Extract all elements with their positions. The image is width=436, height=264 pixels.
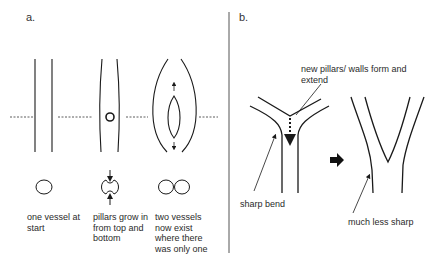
annotation-sharp-bend: sharp bend bbox=[240, 199, 285, 210]
leader-sharp-bend bbox=[254, 136, 275, 191]
vessel-with-pillar bbox=[100, 59, 120, 152]
vessel-cross-section-right bbox=[175, 180, 190, 194]
transition-arrow-icon bbox=[330, 153, 344, 167]
vessel-cross-section-single bbox=[36, 180, 52, 194]
vessel-smooth-branch bbox=[351, 97, 424, 193]
caption-step-2: pillars grow in from top and bottom bbox=[93, 212, 148, 244]
annotation-less-sharp: much less sharp bbox=[348, 217, 414, 228]
vessel-split bbox=[153, 59, 196, 152]
caption-step-3: two vessels now exist where there was on… bbox=[155, 212, 208, 254]
leader-less-sharp bbox=[353, 176, 369, 213]
pillar-icon bbox=[106, 113, 114, 121]
panel-b-label: b. bbox=[239, 11, 248, 23]
panel-a-label: a. bbox=[26, 11, 35, 23]
leader-new-pillars bbox=[296, 84, 321, 115]
caption-step-1: one vessel at start bbox=[27, 212, 80, 233]
vessel-sharp-branch bbox=[250, 97, 329, 193]
vessel-straight bbox=[35, 59, 52, 152]
vessel-cross-section-pinched bbox=[102, 180, 119, 194]
vessel-cross-section-left bbox=[159, 180, 174, 194]
annotation-new-pillars: new pillars/ walls form and extend bbox=[301, 64, 407, 85]
